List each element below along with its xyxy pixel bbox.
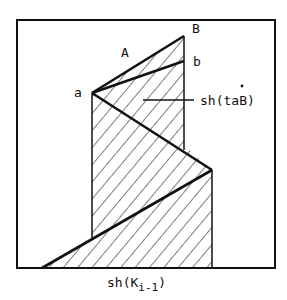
label-region-dot <box>241 85 244 88</box>
label-a: a <box>74 85 82 100</box>
label-bottom: sh(Ki-1) <box>107 275 166 294</box>
diagram: B A b a sh(taB) sh(Ki-1) <box>0 0 287 300</box>
label-region: sh(taB) <box>200 93 255 108</box>
label-A: A <box>121 45 129 60</box>
label-B: B <box>192 21 200 36</box>
label-b: b <box>193 54 201 69</box>
